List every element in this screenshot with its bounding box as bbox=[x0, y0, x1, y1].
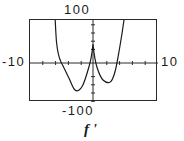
y-axis-min-label: -100 bbox=[62, 104, 94, 117]
x-axis-min-label: -10 bbox=[2, 55, 25, 68]
plot-area bbox=[30, 20, 158, 102]
figure-container: 100 -10 10 -100 bbox=[0, 0, 184, 141]
figure-caption-f-prime: f ' bbox=[84, 122, 97, 137]
plot-viewport-frame bbox=[29, 19, 157, 101]
y-axis-max-label: 100 bbox=[64, 3, 90, 16]
function-curve-f-prime bbox=[55, 20, 124, 91]
x-axis-max-label: 10 bbox=[161, 55, 178, 68]
